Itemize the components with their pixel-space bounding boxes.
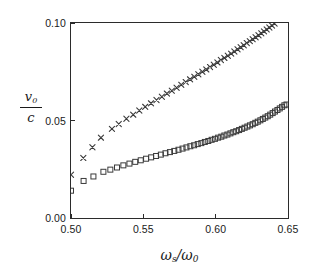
- y-axis-label-numerator: v0: [14, 89, 48, 106]
- plot-frame: [70, 22, 289, 219]
- marker-cross: [81, 155, 86, 160]
- marker-cross: [235, 47, 240, 52]
- marker-cross: [164, 91, 169, 96]
- marker-square: [154, 153, 159, 158]
- marker-square: [138, 158, 143, 163]
- marker-cross: [124, 116, 129, 121]
- marker-square: [91, 174, 96, 179]
- marker-cross: [116, 121, 121, 126]
- series-square-series: [71, 102, 288, 193]
- y-axis-label-denominator: c: [14, 110, 48, 125]
- fraction-bar: [20, 107, 42, 108]
- x-axis-label: ωs/ω0: [70, 247, 289, 265]
- marker-cross: [253, 35, 258, 40]
- series-cross-series: [71, 23, 277, 177]
- marker-cross: [71, 172, 74, 177]
- marker-cross: [131, 112, 136, 117]
- marker-cross: [90, 145, 95, 150]
- marker-cross: [259, 31, 264, 36]
- marker-cross: [137, 108, 142, 113]
- marker-square: [71, 188, 74, 193]
- marker-square: [115, 165, 120, 170]
- marker-cross: [143, 104, 148, 109]
- marker-square: [121, 163, 126, 168]
- marker-square: [108, 167, 113, 172]
- marker-square: [133, 159, 138, 164]
- marker-cross: [256, 33, 261, 38]
- marker-square: [101, 169, 106, 174]
- marker-square: [144, 156, 149, 161]
- x-tick-label: 0.55: [118, 224, 168, 235]
- x-tick-label: 0.60: [191, 224, 241, 235]
- marker-cross: [109, 126, 114, 131]
- y-axis-label: v0 c: [14, 89, 48, 125]
- data-markers-layer: [71, 23, 288, 218]
- marker-cross: [98, 135, 103, 140]
- marker-cross: [148, 101, 153, 106]
- marker-square: [149, 155, 154, 160]
- marker-cross: [250, 37, 255, 42]
- x-tick-label: 0.65: [263, 224, 313, 235]
- marker-cross: [154, 97, 159, 102]
- figure: 0.000.050.10 0.500.550.600.65 v0 c ωs/ω0: [0, 0, 316, 280]
- plot-canvas: [71, 23, 288, 218]
- x-tick-label: 0.50: [46, 224, 96, 235]
- marker-square: [81, 178, 86, 183]
- marker-cross: [232, 49, 237, 54]
- marker-cross: [159, 94, 164, 99]
- marker-square: [127, 161, 132, 166]
- marker-cross: [261, 29, 266, 34]
